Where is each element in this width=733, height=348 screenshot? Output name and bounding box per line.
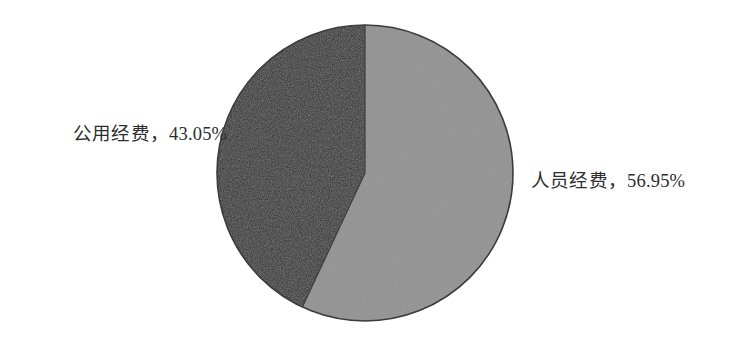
pie-chart-graphic [216, 24, 514, 322]
pie-label-renyuan-jingfei: 人员经费，56.95% [531, 170, 685, 193]
pie-label-gongyong-jingfei: 公用经费，43.05% [73, 123, 227, 146]
pie-svg [216, 24, 514, 322]
pie-chart-figure: 公用经费，43.05% 人员经费，56.95% [0, 0, 733, 348]
